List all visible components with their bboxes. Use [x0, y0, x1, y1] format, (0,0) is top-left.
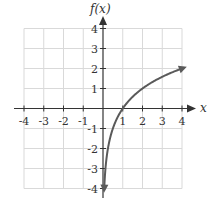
- y-tick-label: 1: [91, 83, 98, 96]
- y-tick-label: -2: [87, 143, 98, 156]
- y-tick-label: -1: [87, 123, 98, 136]
- x-tick-label: -2: [58, 115, 69, 128]
- y-axis-arrow-icon: [99, 16, 107, 25]
- y-tick-label: -4: [87, 183, 98, 196]
- y-tick-label: -3: [87, 163, 98, 176]
- y-tick-label: 3: [91, 43, 98, 56]
- y-axis-label: f(x): [89, 2, 111, 16]
- x-tick-label: -4: [19, 115, 30, 128]
- log-curve: [100, 66, 186, 193]
- x-axis-arrow-icon: [187, 105, 196, 113]
- x-tick-label: 2: [139, 115, 146, 128]
- x-axis: x: [14, 101, 207, 115]
- x-axis-label: x: [200, 101, 207, 115]
- x-tick-label: -3: [38, 115, 49, 128]
- y-tick-label: 4: [91, 23, 98, 36]
- x-tick-label: 3: [159, 115, 166, 128]
- y-tick-label: 2: [91, 63, 98, 76]
- x-tick-label: 4: [179, 115, 186, 128]
- chart: x f(x) -4-3-2-11234 4321-1-2-3-4: [0, 0, 213, 212]
- x-tick-label: 1: [119, 115, 126, 128]
